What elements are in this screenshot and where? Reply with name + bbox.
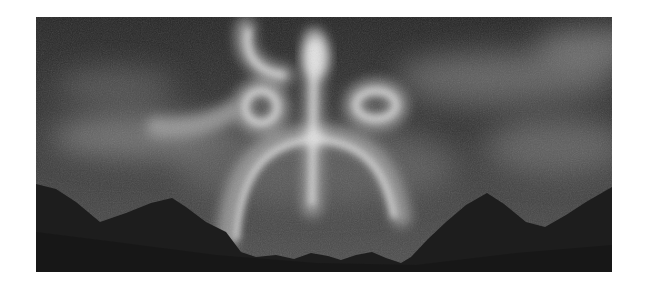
aurora-photo xyxy=(36,17,612,272)
aurora-scene xyxy=(36,17,612,272)
